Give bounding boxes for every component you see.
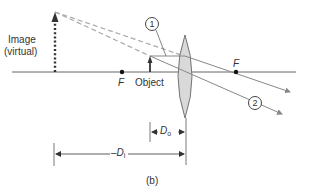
d-o-subscript: o — [167, 130, 171, 137]
ray-2 — [150, 56, 282, 114]
focal-label-right: F — [233, 59, 239, 69]
focal-point-left — [120, 70, 124, 74]
virtual-ray-2-extension — [55, 12, 150, 56]
ray-1-label: 1 — [145, 17, 159, 31]
d-i-label: –Di — [111, 148, 125, 159]
converging-lens — [178, 35, 192, 118]
image-label-line2: (virtual) — [4, 47, 37, 57]
object-label: Object — [135, 78, 164, 88]
virtual-ray-1-extension — [55, 12, 184, 56]
d-i-subscript: i — [124, 152, 126, 159]
d-i-symbol: –D — [111, 147, 124, 158]
figure-caption: (b) — [146, 176, 158, 186]
ray-1-leader — [156, 30, 166, 56]
focal-point-right — [234, 70, 238, 74]
focal-label-left: F — [118, 78, 124, 88]
ray-2-label: 2 — [248, 96, 262, 110]
image-label-line1: Image — [8, 35, 36, 45]
d-o-label: Do — [160, 126, 171, 137]
